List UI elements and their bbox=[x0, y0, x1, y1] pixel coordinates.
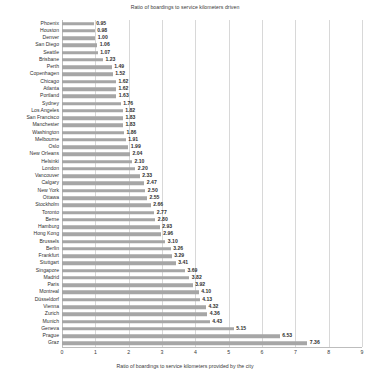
category-label: Calgary bbox=[41, 181, 59, 187]
bar-value-label: 3.29 bbox=[174, 253, 184, 259]
bar-row: Paris3.92 bbox=[62, 282, 362, 289]
bar-row: Melbourne1.91 bbox=[62, 136, 362, 143]
bar-row: Portland1.63 bbox=[62, 93, 362, 100]
x-tick-label: 1 bbox=[94, 349, 97, 355]
category-label: Washington bbox=[32, 130, 59, 136]
bar-value-label: 2.04 bbox=[133, 152, 143, 158]
category-label: Portland bbox=[40, 93, 59, 99]
gridline bbox=[362, 20, 363, 347]
bar bbox=[62, 80, 116, 84]
category-label: Brisbane bbox=[39, 57, 59, 63]
bar-value-label: 3.69 bbox=[188, 268, 198, 274]
bar-row: New York2.50 bbox=[62, 187, 362, 194]
bar-row: Manchester1.83 bbox=[62, 122, 362, 129]
bar-value-label: 1.76 bbox=[123, 101, 133, 107]
bar bbox=[62, 65, 112, 69]
bar-value-label: 1.06 bbox=[100, 43, 110, 49]
category-label: Houston bbox=[40, 28, 59, 34]
bar bbox=[62, 29, 95, 33]
category-label: Manchester bbox=[32, 123, 59, 129]
x-tick-label: 6 bbox=[261, 349, 264, 355]
bar-value-label: 1.99 bbox=[131, 144, 141, 150]
bar bbox=[62, 283, 193, 287]
x-tick-label: 4 bbox=[194, 349, 197, 355]
bar-value-label: 3.41 bbox=[178, 261, 188, 267]
bar-row: Atlanta1.62 bbox=[62, 85, 362, 92]
x-tick-label: 5 bbox=[227, 349, 230, 355]
bar-row: Stuttgart3.41 bbox=[62, 260, 362, 267]
bar bbox=[62, 102, 121, 106]
bar bbox=[62, 182, 144, 186]
bar bbox=[62, 204, 151, 208]
bar-value-label: 2.20 bbox=[138, 166, 148, 172]
bar-chart: Ratio of boardings to service kilometers… bbox=[0, 0, 370, 378]
bar-value-label: 2.93 bbox=[162, 224, 172, 230]
bar-row: Brussels3.10 bbox=[62, 238, 362, 245]
bar-row: Singapore3.69 bbox=[62, 267, 362, 274]
category-label: San Francisco bbox=[26, 115, 59, 121]
category-label: Geneva bbox=[41, 326, 59, 332]
bar bbox=[62, 116, 123, 120]
category-label: Zurich bbox=[45, 311, 59, 317]
category-label: Prague bbox=[43, 333, 59, 339]
bar-value-label: 2.66 bbox=[153, 202, 163, 208]
bar-row: Madrid3.82 bbox=[62, 274, 362, 281]
bar-row: Graz7.36 bbox=[62, 340, 362, 347]
category-label: Sydney bbox=[42, 101, 59, 107]
bar bbox=[62, 109, 123, 113]
bar bbox=[62, 124, 123, 128]
bar-row: Calgary2.47 bbox=[62, 180, 362, 187]
bar-value-label: 3.26 bbox=[173, 246, 183, 252]
bar-value-label: 1.63 bbox=[119, 93, 129, 99]
bar-value-label: 1.52 bbox=[115, 72, 125, 78]
x-tick-label: 3 bbox=[161, 349, 164, 355]
x-tick-label: 7 bbox=[294, 349, 297, 355]
bar-value-label: 1.83 bbox=[126, 123, 136, 129]
category-label: Atlanta bbox=[43, 86, 59, 92]
category-label: Perth bbox=[47, 64, 59, 70]
bar-value-label: 3.10 bbox=[168, 239, 178, 245]
bar-value-label: 1.62 bbox=[119, 86, 129, 92]
bar bbox=[62, 44, 97, 48]
category-label: Seattle bbox=[43, 50, 59, 56]
bar-value-label: 7.36 bbox=[310, 341, 320, 347]
bar-value-label: 1.91 bbox=[128, 137, 138, 143]
category-label: Hamburg bbox=[38, 224, 59, 230]
bar-row: New Orleans2.04 bbox=[62, 151, 362, 158]
category-label: Oslo bbox=[49, 144, 59, 150]
bar bbox=[62, 51, 98, 55]
bar-value-label: 2.55 bbox=[150, 195, 160, 201]
bar bbox=[62, 73, 113, 77]
bar bbox=[62, 334, 280, 338]
category-label: Vancouver bbox=[35, 173, 59, 179]
bar-value-label: 2.10 bbox=[135, 159, 145, 165]
bar bbox=[62, 320, 210, 324]
bar-row: Oslo1.99 bbox=[62, 144, 362, 151]
category-label: Copenhagen bbox=[30, 72, 59, 78]
bar bbox=[62, 138, 126, 142]
bar-value-label: 1.62 bbox=[119, 79, 129, 85]
bar bbox=[62, 313, 207, 317]
bar-value-label: 2.80 bbox=[158, 217, 168, 223]
bar-value-label: 1.07 bbox=[100, 50, 110, 56]
bar bbox=[62, 218, 155, 222]
x-axis-ticks: 0123456789 bbox=[62, 349, 362, 359]
category-label: Düsseldorf bbox=[35, 297, 59, 303]
bar bbox=[62, 269, 185, 273]
category-label: Munich bbox=[43, 319, 59, 325]
bar-value-label: 0.98 bbox=[97, 28, 107, 34]
bar bbox=[62, 247, 171, 251]
category-label: Hong Kong bbox=[34, 232, 60, 238]
bar-row: Copenhagen1.52 bbox=[62, 71, 362, 78]
bar bbox=[62, 327, 234, 331]
category-label: London bbox=[42, 166, 59, 172]
bar-value-label: 1.49 bbox=[114, 64, 124, 70]
bar-value-label: 3.92 bbox=[195, 282, 205, 288]
bar-value-label: 4.13 bbox=[202, 297, 212, 303]
category-label: New Orleans bbox=[30, 152, 59, 158]
bar-row: Munich4.43 bbox=[62, 318, 362, 325]
bar bbox=[62, 233, 161, 237]
bar-row: Helsinki2.10 bbox=[62, 158, 362, 165]
bar-row: Berlin3.26 bbox=[62, 245, 362, 252]
category-label: Singapore bbox=[36, 268, 59, 274]
